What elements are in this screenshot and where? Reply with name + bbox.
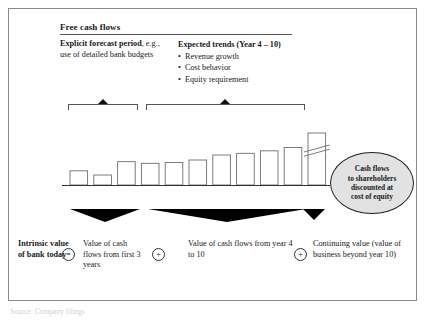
triangle-marker-continuing-icon (303, 209, 325, 220)
callout-line: Cash flows (348, 164, 397, 173)
callout-text: Cash flowsto shareholdersdiscounted atco… (344, 164, 401, 202)
source-caption: Source: Company filings (10, 307, 85, 316)
bracket-expected-trends (146, 104, 305, 110)
figure-root: Free cash flows Explicit forecast period… (0, 0, 425, 320)
triangle-marker-explicit-icon (70, 209, 140, 222)
chart-bar (165, 163, 183, 186)
term-continuing-value: Continuing value (value of business beyo… (313, 239, 409, 260)
term-years-four-to-ten: Value of cash flows from year 4 to 10 (188, 239, 293, 260)
list-item: •Equity requirement (178, 74, 338, 86)
expected-trends-list: •Revenue growth •Cost behavior •Equity r… (178, 51, 338, 86)
list-item: •Cost behavior (178, 62, 338, 74)
chart-bar (260, 151, 278, 185)
explicit-forecast-label: Explicit forecast period (60, 39, 142, 48)
bracket-marker-icon (220, 99, 230, 104)
list-item-label: Cost behavior (185, 63, 231, 72)
callout-line: to shareholders (348, 174, 397, 183)
chart-bar (213, 155, 231, 185)
chart-bar (141, 163, 159, 185)
expected-trends-block: Expected trends (Year 4 – 10) •Revenue g… (178, 39, 338, 85)
callout-cash-flows-to-shareholders: Cash flowsto shareholdersdiscounted atco… (330, 152, 414, 214)
operator-equals-icon: = (62, 248, 75, 261)
chart-bar (70, 171, 88, 185)
chart-bar (189, 160, 207, 185)
chart-bar (118, 162, 136, 185)
bullet-icon: • (178, 62, 185, 74)
operator-plus-icon: + (152, 248, 165, 261)
chart-bar (94, 175, 112, 185)
bullet-icon: • (178, 51, 185, 63)
chart-bar (237, 153, 255, 185)
bracket-marker-icon (98, 99, 108, 104)
header-divider (60, 34, 292, 35)
chart-bar (284, 148, 302, 186)
chart-bar (308, 133, 326, 185)
callout-line: discounted at (348, 183, 397, 192)
explicit-forecast-description: Explicit forecast period, e.g., use of d… (60, 39, 168, 60)
list-item-label: Revenue growth (185, 52, 239, 61)
triangle-marker-trends-icon (148, 209, 306, 222)
bullet-icon: • (178, 74, 185, 86)
expected-trends-heading: Expected trends (Year 4 – 10) (178, 39, 338, 51)
bar-chart-svg (62, 122, 330, 188)
term-first-three-years: Value of cash flows from first 3 years (83, 239, 145, 271)
bracket-explicit-period (68, 104, 138, 110)
list-item-label: Equity requirement (185, 75, 248, 84)
list-item: •Revenue growth (178, 51, 338, 63)
operator-plus-icon: + (294, 248, 307, 261)
callout-line: cost of equity (348, 192, 397, 201)
page-title: Free cash flows (60, 22, 120, 32)
cash-flow-bar-chart (62, 122, 330, 188)
